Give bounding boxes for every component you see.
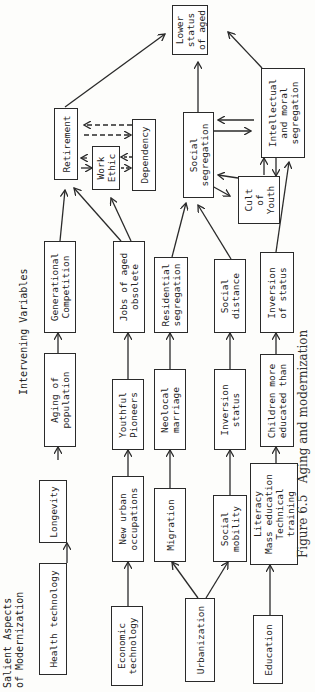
node-education: Education [253, 615, 283, 684]
node-label: Lower status of aged [174, 10, 207, 50]
node-longevity: Longevity [39, 480, 67, 543]
node-label: Inversion status [219, 384, 241, 435]
node-social-distance: Social distance [214, 259, 246, 333]
node-work-ethic: Work Ethic [92, 146, 120, 190]
salient-aspects-header: Salient Aspects of Modernization [2, 592, 26, 688]
node-inversion-of-status: Inversion of status [260, 252, 294, 333]
node-label: Dependency [139, 126, 150, 183]
node-label: Children more educated than [266, 363, 288, 437]
node-label: Social distance [219, 273, 241, 319]
node-cult-of-youth: Cult of Youth [238, 176, 280, 224]
node-children-more-educated: Children more educated than [260, 354, 294, 447]
node-label: Social mobility [219, 506, 241, 552]
node-label: Intellectual and moral segregation [267, 79, 300, 148]
node-label: Literacy Mass education Technical traini… [252, 474, 296, 554]
intervening-variables-header: Intervening Variables [18, 269, 30, 395]
node-health-technology: Health technology [39, 563, 67, 675]
node-jobs-of-aged-obsolete: Jobs of aged obsolete [113, 241, 145, 333]
diagram-canvas: Salient Aspects of Modernization Interve… [0, 0, 315, 692]
node-label: Work Ethic [95, 154, 117, 183]
node-retirement: Retirement [54, 108, 78, 180]
node-label: Aging of population [49, 371, 71, 428]
node-new-urban-occupations: New urban occupations [112, 476, 144, 562]
node-label: Social segregation [188, 124, 210, 187]
node-label: Education [263, 624, 274, 675]
node-urbanization: Urbanization [185, 598, 215, 682]
node-social-mobility: Social mobility [213, 495, 247, 562]
node-label: Residential segregation [160, 264, 182, 327]
node-intellectual-moral-segregation: Intellectual and moral segregation [261, 68, 305, 158]
node-label: Generational Competition [49, 253, 71, 322]
node-dependency: Dependency [132, 119, 156, 191]
node-economic-technology: Economic technology [111, 606, 143, 686]
node-generational-competition: Generational Competition [44, 241, 76, 333]
figure-caption: Figure 6.5 Aging and modernization [296, 330, 310, 558]
node-label: Jobs of aged obsolete [118, 253, 140, 322]
node-label: Cult of Youth [243, 186, 276, 215]
node-inversion-status: Inversion status [214, 369, 246, 450]
node-label: Economic technology [116, 617, 138, 674]
node-label: Retirement [61, 115, 72, 172]
node-lower-status-of-aged: Lower status of aged [172, 5, 208, 55]
node-social-segregation: Social segregation [183, 112, 214, 198]
node-label: Migration [165, 499, 176, 550]
node-youthful-pioneers: Youthful Pioneers [112, 379, 144, 450]
node-label: Youthful Pioneers [117, 392, 139, 438]
node-label: Inversion of status [266, 267, 288, 318]
node-aging-of-population: Aging of population [44, 353, 76, 447]
node-label: Urbanization [195, 606, 206, 675]
node-label: New urban occupations [117, 488, 139, 551]
node-label: Longevity [48, 486, 59, 537]
node-residential-segregation: Residential segregation [154, 257, 188, 333]
node-migration: Migration [154, 488, 186, 562]
node-literacy-mass-education: Literacy Mass education Technical traini… [250, 463, 298, 565]
node-neolocal-marriage: Neolocal marriage [154, 369, 186, 450]
node-label: Health technology [48, 570, 59, 667]
node-label: Neolocal marriage [159, 387, 181, 433]
